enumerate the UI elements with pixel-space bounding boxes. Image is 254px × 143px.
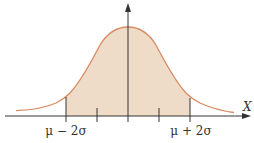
- normal-curve-diagram: X μ − 2σ μ + 2σ: [0, 0, 254, 143]
- y-axis-arrow-icon: [125, 3, 131, 12]
- tick-label-mu-minus-2sigma: μ − 2σ: [45, 124, 86, 138]
- shaded-region: [16, 27, 234, 116]
- x-axis-label: X: [242, 100, 252, 114]
- tick-label-mu-plus-2sigma: μ + 2σ: [170, 124, 211, 138]
